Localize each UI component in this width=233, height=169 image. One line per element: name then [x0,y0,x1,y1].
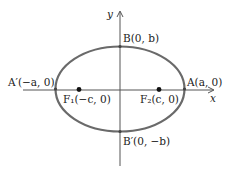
label-b: B(0, b) [123,32,159,44]
vertex-b-marker [118,45,121,48]
label-b-prime: B′(0, −b) [123,135,170,147]
focus-f1-point [77,87,82,92]
vertex-b-prime-marker [118,130,121,133]
vertex-a-marker [183,87,186,90]
x-axis-label: x [210,92,216,104]
label-f1: F₁(−c, 0) [63,93,111,105]
focus-f2-point [157,87,162,92]
ellipse-diagram: y x B(0, b) B′(0, −b) A′(−a, 0) A(a, 0) … [0,0,233,169]
y-axis-label: y [106,8,114,20]
label-a-prime: A′(−a, 0) [7,76,55,88]
label-f2: F₂(c, 0) [140,93,179,105]
label-a: A(a, 0) [186,76,222,88]
